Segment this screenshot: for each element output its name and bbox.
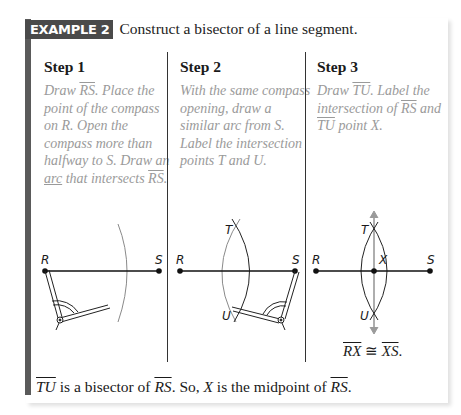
text: . So, [172, 378, 204, 395]
congruent-symbol: ≅ [361, 343, 382, 359]
point-x: X [204, 378, 213, 395]
congruence-statement: RX ≅ XS. [343, 342, 402, 360]
text: is the midpoint of [213, 378, 331, 395]
label-u: U [360, 309, 369, 323]
label-r: R [312, 253, 320, 267]
label-s: S [427, 253, 435, 267]
label-x: X [378, 253, 388, 267]
point-r [313, 268, 319, 274]
arrow-down-icon [370, 327, 378, 334]
label-t: T [361, 223, 370, 237]
segment-rs: RS [331, 378, 348, 395]
arrow-up-icon [370, 211, 378, 218]
segment-xs: XS [382, 343, 399, 359]
text: . [348, 378, 352, 395]
text: . [399, 343, 403, 359]
point-s [427, 268, 433, 274]
line-tu: TU [36, 378, 56, 395]
text: is a bisector of [56, 378, 155, 395]
conclusion: TU is a bisector of RS. So, X is the mid… [36, 378, 352, 396]
segment-rs: RS [154, 378, 171, 395]
point-x [371, 268, 377, 274]
segment-rx: RX [343, 343, 361, 359]
